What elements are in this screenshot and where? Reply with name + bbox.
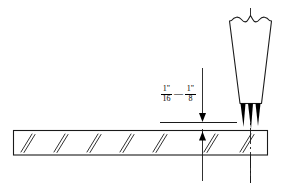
- dimension-min-fraction: 1" 16: [161, 85, 172, 103]
- plate-outline: [14, 131, 268, 156]
- dimension-range-separator: —: [172, 89, 185, 98]
- torch-body-outline: [230, 16, 272, 104]
- dimension-min-denominator: 16: [162, 95, 172, 103]
- diagram-canvas: [0, 0, 283, 189]
- dimension-min-numerator: 1": [162, 85, 171, 93]
- cutting-torch: [230, 16, 272, 104]
- flame-cone-left: [241, 104, 246, 128]
- dimension-max-numerator: 1": [186, 85, 195, 93]
- dimension-arrow-down: [199, 113, 206, 122]
- standoff-dimension-label: 1" 16 — 1" 8: [161, 85, 196, 103]
- dimension-max-denominator: 8: [188, 95, 194, 103]
- steel-plate: [14, 131, 268, 156]
- flame-cones: [241, 104, 261, 130]
- flame-cone-right: [256, 104, 261, 127]
- technical-diagram: 1" 16 — 1" 8: [0, 0, 283, 189]
- flame-cone-center: [248, 104, 253, 130]
- dimension-max-fraction: 1" 8: [185, 85, 196, 103]
